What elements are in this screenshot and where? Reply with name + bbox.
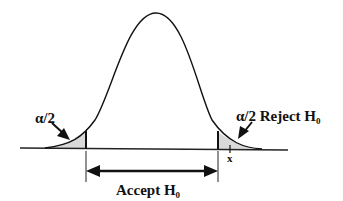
x-marker-label: x [227,152,233,164]
normal-distribution-diagram: x α/2 α/2 Reject H0 Accept H0 [0,0,343,201]
left-tail-label: α/2 [35,110,55,126]
right-tail-label: α/2 Reject H0 [236,108,321,126]
arrowhead-left-icon [86,165,100,177]
accept-label: Accept H0 [116,182,181,200]
arrowhead-right-icon [204,165,218,177]
bell-curve [45,13,262,149]
diagram-canvas: x α/2 α/2 Reject H0 Accept H0 [0,0,343,201]
